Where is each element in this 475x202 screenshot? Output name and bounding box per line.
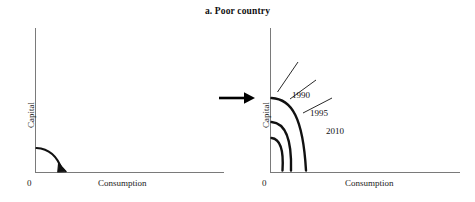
curve-label-2010: 2010	[326, 126, 344, 136]
panel-poor-country-after: Capital Consumption 0 1990 1995 2010	[240, 0, 475, 202]
left-y-axis-label: Capital	[26, 102, 36, 128]
right-origin-label: 0	[262, 178, 267, 188]
right-panel-plot	[240, 0, 475, 202]
left-x-axis-label: Consumption	[98, 178, 147, 188]
figure-root: a. Poor country Capital Consumption 0	[0, 0, 475, 202]
right-curve-frontier-2010	[272, 98, 307, 171]
left-origin-label: 0	[27, 178, 32, 188]
right-curve-frontier-1990	[272, 138, 283, 171]
left-curve-end-arrowhead-icon	[58, 163, 66, 172]
right-leader-line-1990	[278, 62, 299, 92]
curve-label-1995: 1995	[310, 108, 328, 118]
right-y-axis-label: Capital	[261, 102, 271, 128]
right-x-axis-label: Consumption	[345, 178, 394, 188]
left-panel-plot	[0, 0, 240, 202]
curve-label-1990: 1990	[292, 90, 310, 100]
panel-poor-country-before: Capital Consumption 0	[0, 0, 240, 202]
